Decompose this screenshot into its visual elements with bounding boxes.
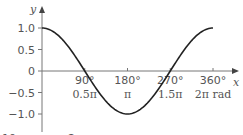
cut-text-1: 10 <box>2 132 16 135</box>
x-tick-sublabel: 1.5π <box>158 88 183 101</box>
x-tick-label: 360° <box>200 74 227 87</box>
y-tick-label: 0.5 <box>18 44 36 57</box>
x-ticks: 90°0.5π180°π270°1.5π360°2π rad <box>72 68 231 101</box>
y-ticks: 1.00.50−0.5−1.0 <box>8 22 42 121</box>
cosine-chart: y x 1.00.50−0.5−1.0 90°0.5π180°π270°1.5π… <box>0 0 243 135</box>
cut-off-bottom-text: 10 2 <box>2 132 75 135</box>
x-tick-sublabel: π <box>124 88 131 101</box>
y-tick-label: 1.0 <box>18 22 36 35</box>
x-tick-sublabel: 0.5π <box>72 88 97 101</box>
cut-text-2: 2 <box>68 132 75 135</box>
x-tick-label: 180° <box>114 74 141 87</box>
y-axis-arrow-icon <box>39 6 45 13</box>
x-axis-arrow-icon <box>232 68 239 74</box>
y-tick-label: −1.0 <box>8 108 35 121</box>
y-tick-label: 0 <box>28 65 35 78</box>
y-tick-label: −0.5 <box>8 87 35 100</box>
x-tick-sublabel: 2π rad <box>195 88 232 101</box>
y-axis-label: y <box>29 3 37 16</box>
x-axis-label: x <box>233 76 240 89</box>
